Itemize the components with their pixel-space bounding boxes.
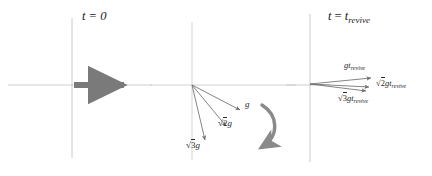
label-sqrt2gt-base: gt [385, 78, 392, 88]
label-gt-revive-base: gt [344, 60, 351, 70]
label-sqrt2gt-sub: revive [392, 83, 407, 89]
right-title-t: t [328, 9, 331, 23]
label-gt-revive-sub: revive [351, 65, 366, 71]
rotation-arrow [262, 105, 275, 147]
sqrt-radical-icon: √ [338, 93, 343, 103]
label-gt-revive: gtrevive [344, 61, 365, 71]
diagram-canvas [0, 0, 432, 176]
left-panel-title: t = 0 [82, 10, 106, 23]
label-sqrt3gt-revive: √3gtrevive [338, 94, 368, 104]
right-title-subscript: revive [348, 15, 370, 25]
vector-gt-revive [310, 78, 371, 84]
label-sqrt3gt-sub: revive [354, 98, 369, 104]
physics-vector-diagram: t = 0 g √2g √3g t = trevive gtrevive √2g… [0, 0, 432, 176]
label-sqrt3gt-base: gt [347, 93, 354, 103]
sqrt-radical-icon: √ [376, 78, 381, 88]
vector-g [192, 85, 240, 110]
label-sqrt3g-base: g [195, 140, 200, 150]
label-g-text: g [245, 99, 250, 109]
label-sqrt2g-base: g [227, 118, 232, 128]
label-g: g [245, 100, 250, 109]
label-sqrt2g: √2g [218, 119, 232, 128]
right-panel-title: t = trevive [328, 10, 370, 25]
label-sqrt2gt-revive: √2gtrevive [376, 79, 406, 89]
label-sqrt3g: √3g [186, 141, 200, 150]
right-title-equals: = [335, 9, 342, 23]
